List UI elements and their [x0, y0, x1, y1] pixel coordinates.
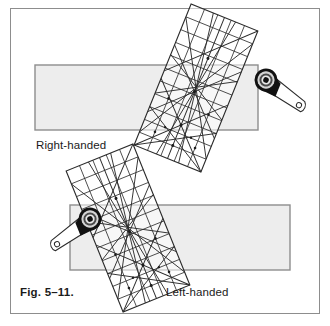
- label-left-handed: Left-handed: [166, 286, 229, 298]
- figure-caption: Fig. 5–11.: [20, 286, 74, 298]
- rotary-cutter-icon: [249, 65, 313, 113]
- label-right-handed: Right-handed: [36, 139, 106, 151]
- illustration-stage: [0, 0, 330, 326]
- figure-root: Right-handed Left-handed Fig. 5–11.: [0, 0, 330, 326]
